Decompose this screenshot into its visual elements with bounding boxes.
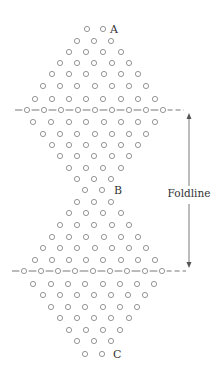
hole-circle: [107, 268, 112, 273]
hole-circle: [101, 119, 106, 124]
hole-circle: [74, 245, 79, 250]
hole-circle: [99, 187, 104, 192]
hole-circle: [124, 268, 129, 273]
hole-circle: [108, 176, 113, 181]
hole-circle: [74, 176, 79, 181]
hole-circle: [142, 292, 147, 297]
hole-circle: [57, 245, 62, 250]
hole-circle: [24, 107, 29, 112]
hole-circle: [109, 83, 114, 88]
hole-circle: [83, 142, 88, 147]
hole-circle: [159, 268, 164, 273]
hole-circle: [83, 49, 88, 54]
hole-circle: [30, 119, 35, 124]
hole-circle: [135, 257, 140, 262]
hole-circle: [143, 107, 148, 112]
hole-circle: [66, 142, 71, 147]
hole-circle: [66, 49, 71, 54]
hole-circle: [41, 107, 46, 112]
hole-circle: [66, 234, 71, 239]
hole-circle: [126, 315, 131, 320]
hole-circle: [74, 60, 79, 65]
hole-circle: [152, 257, 157, 262]
hole-circle: [74, 199, 79, 204]
hole-circle: [65, 304, 70, 309]
hole-circle: [83, 96, 88, 101]
hole-circle: [92, 245, 97, 250]
hole-circle: [83, 210, 88, 215]
hole-circle: [49, 257, 54, 262]
hole-circle: [83, 234, 88, 239]
hole-circle: [49, 234, 54, 239]
hole-circle: [65, 281, 70, 286]
hole-lattice: [30, 26, 157, 356]
hole-circle: [74, 338, 79, 343]
hole-circle: [58, 107, 63, 112]
hole-circle: [135, 234, 140, 239]
hole-circle: [125, 292, 130, 297]
hole-circle: [160, 107, 165, 112]
hole-circle: [74, 222, 79, 227]
hole-circle: [66, 96, 71, 101]
hole-circle: [66, 327, 71, 332]
arrow-down-icon: [187, 262, 192, 268]
hole-circle: [82, 351, 87, 356]
hole-circle: [49, 142, 54, 147]
hole-circle: [143, 245, 148, 250]
hole-circle: [83, 327, 88, 332]
hole-circle: [83, 71, 88, 76]
hole-circle: [83, 257, 88, 262]
hole-circle: [134, 281, 139, 286]
hole-circle: [118, 210, 123, 215]
hole-circle: [100, 257, 105, 262]
hole-circle: [108, 199, 113, 204]
hole-circle: [152, 119, 157, 124]
hole-circle: [91, 60, 96, 65]
hole-circle: [101, 234, 106, 239]
hole-circle: [126, 131, 131, 136]
hole-circle: [38, 268, 43, 273]
hole-circle: [100, 26, 105, 31]
hole-circle: [57, 292, 62, 297]
hole-circle: [100, 165, 105, 170]
labels: A B C Foldline: [109, 23, 210, 361]
hole-circle: [40, 131, 45, 136]
hole-circle: [40, 83, 45, 88]
hole-circle: [40, 245, 45, 250]
hole-circle: [118, 71, 123, 76]
hole-circle: [100, 304, 105, 309]
hole-circle: [143, 131, 148, 136]
hole-circle: [91, 315, 96, 320]
hole-circle: [92, 107, 97, 112]
hole-circle: [74, 83, 79, 88]
hole-circle: [74, 315, 79, 320]
hole-circle: [118, 234, 123, 239]
hole-circle: [82, 281, 87, 286]
hole-circle: [48, 304, 53, 309]
hole-circle: [91, 338, 96, 343]
hole-circle: [126, 153, 131, 158]
hole-circle: [109, 107, 114, 112]
hole-circle: [100, 49, 105, 54]
fold-line-bottom: [12, 268, 186, 273]
hole-circle: [126, 222, 131, 227]
hole-circle: [100, 327, 105, 332]
hole-circle: [48, 119, 53, 124]
hole-circle: [118, 257, 123, 262]
hole-circle: [117, 304, 122, 309]
point-label-b: B: [114, 184, 122, 197]
hole-circle: [109, 222, 114, 227]
hole-circle: [57, 60, 62, 65]
hole-circle: [91, 176, 96, 181]
hole-circle: [75, 107, 80, 112]
hole-circle: [49, 71, 54, 76]
hole-circle: [57, 222, 62, 227]
hole-circle: [108, 292, 113, 297]
hole-circle: [83, 165, 88, 170]
foldline-label: Foldline: [168, 187, 211, 199]
hole-circle: [57, 153, 62, 158]
hole-circle: [126, 245, 131, 250]
hole-circle: [126, 60, 131, 65]
hole-circle: [109, 153, 114, 158]
hole-circle: [57, 315, 62, 320]
